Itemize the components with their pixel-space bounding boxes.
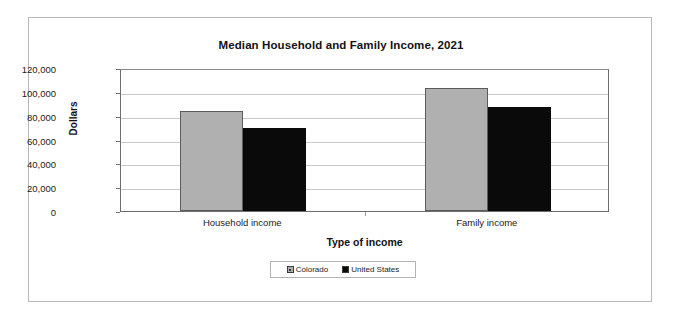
legend-item-colorado: Colorado xyxy=(287,265,328,274)
legend-label-united-states: United States xyxy=(351,265,399,274)
chart-legend: Colorado United States xyxy=(270,261,416,278)
y-tick-label: 60,000 xyxy=(0,135,56,146)
legend-swatch-colorado xyxy=(287,266,294,273)
x-tick-label: Family income xyxy=(417,217,557,228)
y-tick-label: 0 xyxy=(0,207,56,218)
legend-swatch-united-states xyxy=(342,266,349,273)
x-tick-label: Household income xyxy=(172,217,312,228)
x-tick-mark xyxy=(365,212,366,216)
chart-title: Median Household and Family Income, 2021 xyxy=(29,39,653,51)
y-tick-label: 20,000 xyxy=(0,183,56,194)
y-tick-mark xyxy=(116,212,120,213)
bar-colorado-household-income xyxy=(180,111,243,211)
x-axis-title: Type of income xyxy=(120,236,609,248)
y-tick-label: 100,000 xyxy=(0,87,56,98)
bar-united-states-family-income xyxy=(488,107,551,211)
gridline xyxy=(121,94,608,95)
legend-item-united-states: United States xyxy=(342,265,399,274)
legend-label-colorado: Colorado xyxy=(296,265,328,274)
bar-colorado-family-income xyxy=(425,88,488,211)
chart-card: Median Household and Family Income, 2021… xyxy=(28,17,652,302)
y-axis-title: Dollars xyxy=(68,89,79,149)
y-tick-label: 80,000 xyxy=(0,111,56,122)
plot-area xyxy=(120,69,609,212)
y-tick-label: 120,000 xyxy=(0,64,56,75)
y-tick-label: 40,000 xyxy=(0,159,56,170)
bar-united-states-household-income xyxy=(243,128,306,211)
